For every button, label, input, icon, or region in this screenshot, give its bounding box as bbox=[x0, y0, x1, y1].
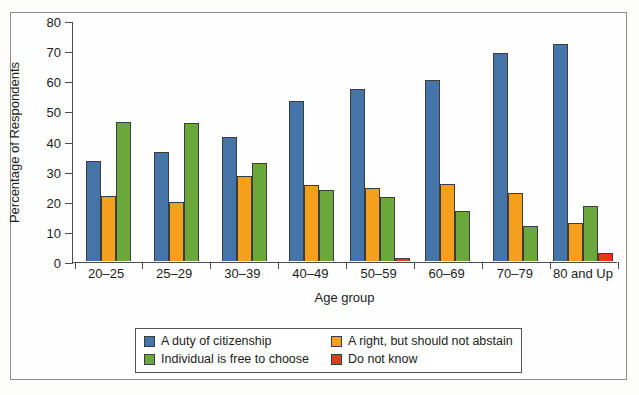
y-axis-tick: 20 bbox=[65, 203, 73, 204]
bar bbox=[553, 44, 568, 261]
bar bbox=[365, 188, 380, 260]
bar bbox=[154, 152, 169, 260]
bar bbox=[568, 223, 583, 261]
figure: Percentage of Respondents 01020304050607… bbox=[0, 0, 639, 395]
bar-group bbox=[414, 22, 482, 261]
x-axis-tick-labels: 20–2525–2930–3940–4950–5960–6970–7980 an… bbox=[72, 266, 617, 281]
plot-area: 01020304050607080 bbox=[72, 22, 617, 263]
y-axis-title: Percentage of Respondents bbox=[6, 22, 24, 263]
bar bbox=[508, 193, 523, 261]
bar bbox=[523, 226, 538, 261]
legend-label: Do not know bbox=[348, 352, 417, 366]
bar bbox=[440, 184, 455, 261]
bar bbox=[222, 137, 237, 261]
bar bbox=[380, 197, 395, 260]
x-axis-title: Age group bbox=[72, 290, 617, 305]
bar bbox=[101, 196, 116, 261]
y-axis-tick: 10 bbox=[65, 233, 73, 234]
bar bbox=[169, 202, 184, 261]
y-axis-tick: 60 bbox=[65, 82, 73, 83]
y-axis-tick-label: 80 bbox=[47, 14, 61, 31]
y-axis-tick: 40 bbox=[65, 143, 73, 144]
bar bbox=[252, 163, 267, 261]
y-axis-tick: 80 bbox=[65, 22, 73, 23]
y-axis-tick-label: 20 bbox=[47, 195, 61, 212]
y-axis-tick: 30 bbox=[65, 173, 73, 174]
bar-group bbox=[210, 22, 278, 261]
bar bbox=[425, 80, 440, 261]
x-axis-tick-label: 50–59 bbox=[345, 266, 413, 281]
x-axis-tick-label: 30–39 bbox=[208, 266, 276, 281]
legend-item[interactable]: Individual is free to choose bbox=[144, 352, 309, 366]
x-axis-tick-label: 70–79 bbox=[481, 266, 549, 281]
legend-swatch-icon bbox=[331, 336, 342, 347]
y-axis-tick-label: 40 bbox=[47, 135, 61, 152]
legend-label: Individual is free to choose bbox=[161, 352, 309, 366]
legend-label: A duty of citizenship bbox=[161, 334, 271, 348]
bar-group bbox=[75, 22, 143, 261]
x-axis-tick-label: 25–29 bbox=[140, 266, 208, 281]
bar bbox=[598, 253, 613, 261]
bar bbox=[493, 53, 508, 261]
y-axis-tick-label: 10 bbox=[47, 225, 61, 242]
legend-item[interactable]: A duty of citizenship bbox=[144, 334, 309, 348]
legend-swatch-icon bbox=[144, 336, 155, 347]
bar bbox=[304, 185, 319, 260]
bar bbox=[237, 176, 252, 260]
legend: A duty of citizenshipA right, but should… bbox=[135, 328, 522, 373]
bar-group bbox=[142, 22, 210, 261]
y-axis-tick-label: 30 bbox=[47, 165, 61, 182]
y-axis-tick: 50 bbox=[65, 112, 73, 113]
bar bbox=[289, 101, 304, 261]
x-axis-tick bbox=[618, 262, 619, 269]
bar-group bbox=[346, 22, 414, 261]
bar bbox=[86, 161, 101, 260]
y-axis-tick: 0 bbox=[65, 263, 73, 264]
legend-grid: A duty of citizenshipA right, but should… bbox=[144, 334, 513, 366]
x-axis-tick-label: 60–69 bbox=[413, 266, 481, 281]
plot-area-wrapper: 01020304050607080 bbox=[72, 22, 617, 263]
bar-groups bbox=[75, 22, 618, 261]
y-axis-tick-label: 70 bbox=[47, 44, 61, 61]
bar bbox=[184, 123, 199, 260]
x-axis-tick-label: 40–49 bbox=[276, 266, 344, 281]
bar bbox=[319, 190, 334, 261]
y-axis-tick-label: 0 bbox=[54, 255, 61, 272]
legend-item[interactable]: A right, but should not abstain bbox=[331, 334, 513, 348]
legend-item[interactable]: Do not know bbox=[331, 352, 513, 366]
bar bbox=[395, 258, 410, 261]
bar-group bbox=[549, 22, 617, 261]
legend-swatch-icon bbox=[331, 354, 342, 365]
legend-label: A right, but should not abstain bbox=[348, 334, 513, 348]
bar bbox=[116, 122, 131, 261]
legend-swatch-icon bbox=[144, 354, 155, 365]
y-axis-tick-label: 50 bbox=[47, 104, 61, 121]
bar-group bbox=[278, 22, 346, 261]
bar bbox=[350, 89, 365, 261]
y-axis-tick-label: 60 bbox=[47, 74, 61, 91]
bar bbox=[455, 211, 470, 261]
x-axis-tick-label: 20–25 bbox=[72, 266, 140, 281]
y-axis-tick: 70 bbox=[65, 52, 73, 53]
x-axis-tick-label: 80 and Up bbox=[549, 266, 617, 281]
y-axis-title-text: Percentage of Respondents bbox=[8, 62, 23, 223]
bar-group bbox=[481, 22, 549, 261]
bar bbox=[583, 206, 598, 260]
